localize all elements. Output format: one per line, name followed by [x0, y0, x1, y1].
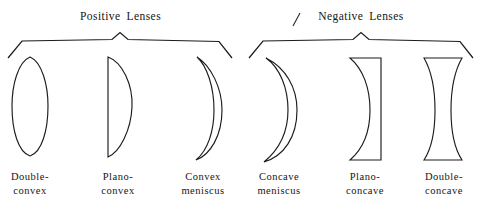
lens-types-figure: Positive Lenses Negative Lenses Double- …	[0, 0, 481, 204]
plano-concave-lens-shape	[350, 58, 381, 160]
label-double-convex: Double- convex	[0, 170, 66, 197]
concave-meniscus-lens-shape	[264, 58, 297, 162]
convex-meniscus-lens-shape	[196, 57, 222, 160]
label-line-2: meniscus	[164, 184, 242, 198]
label-line-2: concave	[407, 184, 481, 198]
label-line-1: Double-	[0, 170, 66, 184]
label-line-1: Double-	[407, 170, 481, 184]
label-line-2: convex	[82, 184, 154, 198]
label-double-concave: Double- concave	[407, 170, 481, 197]
double-concave-lens-shape	[424, 58, 462, 160]
label-line-1: Concave	[240, 170, 318, 184]
label-line-1: Plano-	[82, 170, 154, 184]
double-convex-lens-shape	[12, 57, 48, 156]
negative-lenses-bracket	[249, 33, 473, 59]
positive-lenses-bracket	[8, 33, 232, 59]
label-line-2: concave	[328, 184, 402, 198]
label-line-1: Plano-	[328, 170, 402, 184]
label-plano-convex: Plano- convex	[82, 170, 154, 197]
label-line-2: convex	[0, 184, 66, 198]
label-line-2: meniscus	[240, 184, 318, 198]
positive-lenses-title: Positive Lenses	[0, 10, 241, 22]
label-line-1: Convex	[164, 170, 242, 184]
negative-lenses-title: Negative Lenses	[241, 10, 481, 22]
label-convex-meniscus: Convex meniscus	[164, 170, 242, 197]
label-plano-concave: Plano- concave	[328, 170, 402, 197]
plano-convex-lens-shape	[108, 57, 132, 157]
label-concave-meniscus: Concave meniscus	[240, 170, 318, 197]
